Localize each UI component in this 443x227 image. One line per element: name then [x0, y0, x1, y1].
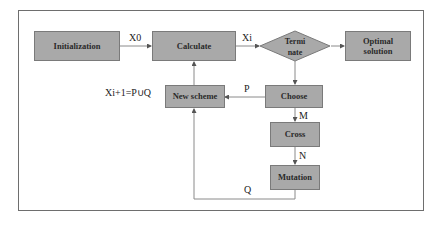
label-xi-plus-1: Xi+1=P∪Q	[105, 87, 151, 98]
node-choose-label: Choose	[281, 91, 307, 101]
node-mutation: Mutation	[270, 165, 320, 190]
node-choose: Choose	[265, 85, 323, 108]
node-initialization: Initialization	[34, 31, 120, 61]
label-n: N	[299, 150, 306, 161]
label-xi: Xi	[242, 32, 252, 43]
terminate-line2: nate	[273, 47, 317, 58]
optimal-line2: solution	[364, 46, 393, 56]
node-new-scheme: New scheme	[165, 85, 225, 108]
node-calculate-label: Calculate	[177, 41, 211, 51]
node-cross-label: Cross	[285, 129, 306, 139]
label-m: M	[299, 110, 308, 121]
label-q: Q	[244, 184, 251, 195]
node-new-scheme-label: New scheme	[173, 91, 218, 101]
optimal-line1: Optimal	[363, 36, 393, 46]
label-p: P	[244, 83, 250, 94]
node-mutation-label: Mutation	[278, 172, 312, 182]
node-terminate-label: Termi nate	[273, 36, 317, 58]
node-calculate: Calculate	[152, 31, 236, 61]
node-optimal-solution: Optimal solution	[345, 31, 411, 61]
flowchart: Initialization Calculate Termi nate Opti…	[0, 0, 443, 227]
node-cross: Cross	[270, 122, 320, 147]
node-initialization-label: Initialization	[54, 41, 101, 51]
terminate-line1: Termi	[273, 36, 317, 47]
label-x0: X0	[129, 32, 141, 43]
